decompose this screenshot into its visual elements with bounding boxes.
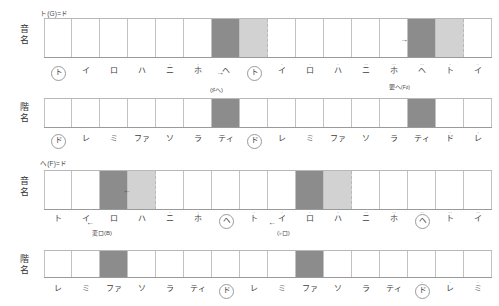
note-label: ·ハ (324, 62, 352, 76)
note-label: ··イ (464, 210, 492, 224)
annotation-text: (♭ロ) (277, 230, 290, 236)
grid-cell (464, 19, 492, 57)
grid-cell (128, 251, 156, 277)
grid-cell (128, 99, 156, 127)
note-glyph: ト (247, 66, 262, 81)
note-glyph: ティ (184, 284, 212, 294)
grid-cell (72, 99, 100, 127)
note-glyph: ニ (352, 214, 380, 224)
note-glyph: レ (72, 134, 100, 144)
note-glyph: レ (436, 284, 464, 294)
note-label: ロ (100, 62, 128, 76)
note-label: ティ (380, 280, 408, 294)
row-label-scale-degrees: 階名 (14, 102, 36, 124)
arrow-icon: ← (123, 186, 131, 195)
grid-cell (296, 99, 324, 127)
note-glyph: ド (415, 284, 430, 299)
annotation: 変ロ(B) (92, 228, 112, 237)
note-label: ·ニ (156, 62, 184, 76)
note-glyph: ニ (156, 214, 184, 224)
note-label: ト (44, 210, 72, 224)
note-label: ··ニ (352, 62, 380, 76)
note-glyph: ド (51, 134, 66, 149)
row-label-line1: 階 (14, 102, 36, 113)
note-glyph: ソ (156, 134, 184, 144)
grid-cell (72, 251, 100, 277)
annotation-text: 嬰ヘ (389, 84, 401, 90)
note-label: ··ヘ (408, 210, 436, 229)
note-glyph: ヘ (219, 214, 234, 229)
note-label: ·イ (268, 62, 296, 76)
note-glyph: ロ (100, 214, 128, 224)
row-label-line2: 名 (14, 265, 36, 276)
grid-cell (240, 99, 268, 127)
grid-cell (408, 171, 436, 209)
row-label-line1: 音 (14, 24, 36, 35)
note-label: ファ (100, 280, 128, 294)
note-glyph: ト (436, 214, 464, 224)
note-label: ·ニ (156, 210, 184, 224)
note-glyph: レ (240, 284, 268, 294)
grid-cell (100, 251, 128, 277)
note-label: ヘ (212, 210, 240, 229)
annotation: (♭ロ) (277, 228, 290, 237)
note-label: ミ (72, 280, 100, 294)
grid-cell (436, 251, 464, 277)
annotation: (♯ヘ) (210, 85, 223, 94)
note-label: ミ (100, 130, 128, 144)
grid-cell (100, 99, 128, 127)
note-glyph: ハ (128, 66, 156, 76)
grid-cell (352, 19, 380, 57)
grid-cell (212, 99, 240, 127)
note-glyph: ハ (128, 214, 156, 224)
note-glyph: ド (247, 134, 262, 149)
grid-cell (156, 99, 184, 127)
grid-cell (72, 171, 100, 209)
grid-cell (408, 251, 436, 277)
grid-cell (240, 171, 268, 209)
note-label: レ (72, 130, 100, 144)
note-label: レ (268, 130, 296, 144)
note-glyph: ト (240, 214, 268, 224)
arrow-icon: ← (86, 218, 94, 227)
grid-cell (268, 251, 296, 277)
note-label: ト (44, 62, 72, 81)
note-glyph: イ (268, 66, 296, 76)
note-label: ファ (324, 130, 352, 144)
grid-cell (184, 19, 212, 57)
note-label: レ (240, 280, 268, 294)
grid-cell (212, 171, 240, 209)
note-label: ティ (184, 280, 212, 294)
note-glyph: ミ (100, 134, 128, 144)
grid-cell (324, 19, 352, 57)
grid-cell (240, 251, 268, 277)
arrow-icon: → (400, 35, 408, 44)
grid-cell (44, 171, 72, 209)
note-label: ソ (324, 280, 352, 294)
note-glyph: イ (464, 66, 492, 76)
grid-cell (436, 19, 464, 57)
grid-cell (296, 171, 324, 209)
grid-cell (128, 171, 156, 209)
note-glyph: ファ (100, 284, 128, 294)
row-label-scale-degrees: 階名 (14, 254, 36, 276)
grid-note-names (44, 170, 492, 210)
note-glyph: ソ (324, 284, 352, 294)
grid-cell (44, 251, 72, 277)
note-glyph: イ (464, 214, 492, 224)
note-label: ソ (156, 130, 184, 144)
note-glyph: ト (436, 66, 464, 76)
grid-cell (464, 251, 492, 277)
grid-cell (380, 99, 408, 127)
note-glyph: ロ (296, 66, 324, 76)
note-label: ラ (156, 280, 184, 294)
note-label: ·ハ (324, 210, 352, 224)
note-label: ミ (296, 130, 324, 144)
note-glyph: ロ (100, 66, 128, 76)
row-label-line2: 名 (14, 187, 36, 198)
grid-cell (380, 251, 408, 277)
note-glyph: ソ (128, 284, 156, 294)
grid-cell (380, 171, 408, 209)
grid-cell (324, 171, 352, 209)
note-glyph: ハ (324, 214, 352, 224)
